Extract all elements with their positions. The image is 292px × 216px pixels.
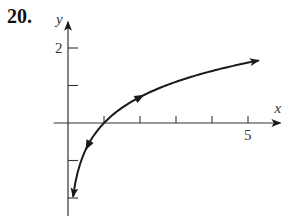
- y-tick-label: 2: [55, 40, 63, 56]
- curve: [73, 60, 259, 196]
- axes: [54, 22, 281, 216]
- direction-arrow-icon: [134, 95, 145, 103]
- curve-right-branch: [94, 60, 259, 135]
- function-graph: 52xy: [0, 0, 292, 216]
- direction-arrow-icon: [85, 139, 93, 150]
- y-axis-label: y: [54, 11, 63, 27]
- x-tick-label: 5: [244, 127, 252, 143]
- x-axis-label: x: [273, 100, 281, 116]
